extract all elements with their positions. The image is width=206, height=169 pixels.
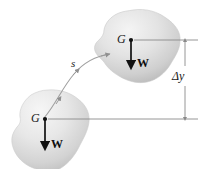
figure-canvas: G W G W s Δy — [0, 0, 206, 169]
lower-cg-label: G — [31, 112, 40, 124]
lower-rigid-body — [12, 90, 89, 169]
upper-weight-label: W — [137, 57, 149, 69]
delta-y-label: Δy — [172, 70, 184, 82]
diagram-svg — [0, 0, 206, 169]
lower-weight-label: W — [51, 138, 63, 150]
upper-cg-label: G — [117, 33, 126, 45]
path-label-s: s — [71, 58, 75, 69]
upper-rigid-body — [95, 9, 181, 82]
